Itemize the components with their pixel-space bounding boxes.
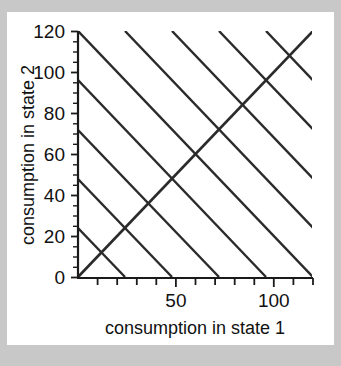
x-tick-label-50: 50: [165, 290, 186, 311]
state-contingent-consumption-chart: 0 20 40 60 80 100 120 50 100 consumption…: [7, 12, 334, 345]
y-tick-label-80: 80: [44, 103, 65, 124]
x-axis-title: consumption in state 1: [105, 318, 285, 338]
y-tick-label-40: 40: [44, 185, 65, 206]
y-axis-title: consumption in state 2: [18, 65, 38, 245]
y-tick-label-120: 120: [33, 21, 65, 42]
figure-frame: 0 20 40 60 80 100 120 50 100 consumption…: [0, 0, 341, 366]
y-tick-label-60: 60: [44, 144, 65, 165]
y-tick-label-100: 100: [33, 62, 65, 83]
y-tick-label-20: 20: [44, 226, 65, 247]
y-tick-label-0: 0: [54, 267, 65, 288]
x-tick-label-100: 100: [258, 290, 290, 311]
chart-card: 0 20 40 60 80 100 120 50 100 consumption…: [7, 12, 334, 345]
